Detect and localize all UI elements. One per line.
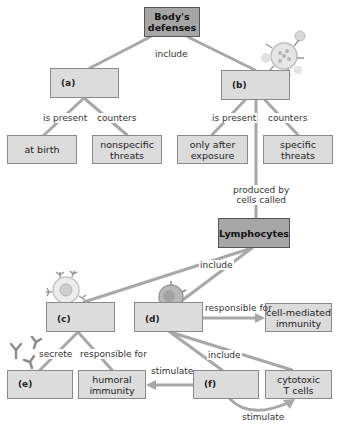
node-specific-threats: specific threats — [263, 135, 333, 164]
node-e-blank: (e) — [7, 370, 73, 399]
node-only-after-exposure: only after exposure — [177, 135, 248, 164]
label-a-is-present: is present — [42, 113, 88, 123]
node-f-blank: (f) — [193, 370, 259, 399]
node-body-defenses: Body's defenses — [144, 7, 200, 37]
node-nonspecific-threats: nonspecific threats — [92, 135, 162, 164]
node-a-blank: (a) — [50, 68, 119, 98]
node-cytotoxic-t-cells: cytotoxic T cells — [265, 370, 332, 399]
node-humoral-immunity: humoral immunity — [78, 370, 146, 399]
node-cell-mediated-immunity: cell-mediated immunity — [265, 303, 332, 332]
node-lymphocytes: Lymphocytes — [218, 218, 290, 248]
label-produced-by: produced by cells called — [232, 185, 290, 205]
label-secrete: secrete — [38, 349, 73, 359]
label-include-lymphocytes: include — [199, 260, 234, 270]
label-b-is-present: is present — [211, 113, 257, 123]
label-stimulate-bottom: stimulate — [241, 412, 285, 422]
label-c-responsible-for: responsible for — [79, 349, 148, 359]
label-d-responsible-for: responsible for — [204, 303, 273, 313]
label-stimulate-left: stimulate — [150, 366, 194, 376]
label-include-d: include — [207, 350, 242, 360]
node-at-birth: at birth — [7, 135, 77, 164]
label-a-counters: counters — [96, 113, 137, 123]
node-c-blank: (c) — [46, 302, 115, 332]
label-include-top: include — [154, 49, 189, 59]
node-d-blank: (d) — [134, 302, 203, 332]
node-b-blank: (b) — [221, 70, 290, 100]
label-b-counters: counters — [267, 113, 308, 123]
